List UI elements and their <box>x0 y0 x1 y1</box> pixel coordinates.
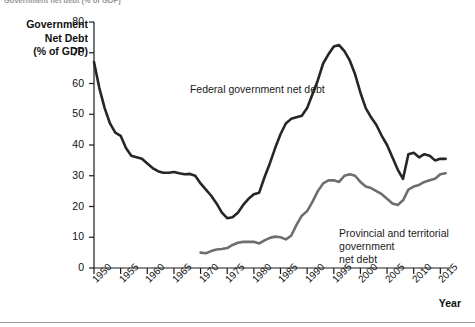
y-axis-ticks <box>89 22 94 268</box>
y-axis-tick-label: 30 <box>58 170 84 181</box>
series-paths <box>94 45 446 253</box>
chart-figure: Government net debt (% of GDP) Governmen… <box>0 0 475 327</box>
y-axis-tick-label: 20 <box>58 201 84 212</box>
y-axis-tick-label: 70 <box>58 47 84 58</box>
series-line-0 <box>94 45 446 218</box>
y-axis-tick-label: 60 <box>58 78 84 89</box>
y-axis-tick-label: 10 <box>58 231 84 242</box>
series-annotation-0: Federal government net debt <box>190 83 325 96</box>
series-annotation-1: Provincial and territorial government ne… <box>339 227 475 266</box>
y-axis-tick-label: 50 <box>58 108 84 119</box>
y-axis-tick-label: 80 <box>58 16 84 27</box>
y-axis-tick-label: 40 <box>58 139 84 150</box>
bottom-divider <box>0 322 475 323</box>
y-axis-tick-label: 0 <box>58 262 84 273</box>
